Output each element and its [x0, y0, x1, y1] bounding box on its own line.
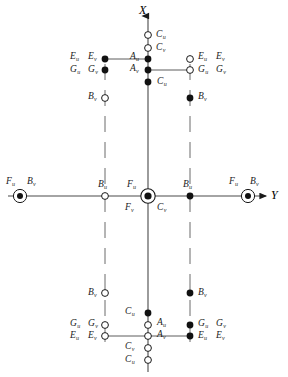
point-a-v-bottom	[145, 333, 152, 340]
point-c-u-top	[145, 32, 152, 39]
label-e-v-left: Ev	[88, 52, 96, 62]
point-b-v-lower-left	[102, 290, 109, 297]
label-e-v-right: Ev	[216, 52, 224, 62]
label-g-u-left: Gu	[70, 65, 80, 75]
label-e-u-left: Eu	[70, 52, 79, 62]
point-g-u-right	[187, 67, 194, 74]
point-b-v-lower-right	[187, 290, 194, 297]
point-concentric-far-left-core	[17, 193, 23, 199]
label-b-v-far-right: Bv	[250, 177, 258, 187]
point-g-v-bottom-left	[102, 322, 109, 329]
point-origin-core	[144, 192, 151, 199]
point-a-v-top	[145, 67, 152, 74]
point-c-u-bottom-upper	[145, 310, 152, 317]
point-b-u-axis-left	[102, 193, 109, 200]
x-axis-label: X	[139, 4, 146, 16]
label-g-v-right: Gv	[216, 65, 226, 75]
label-c-u-top: Cu	[156, 30, 165, 40]
label-c-u-top-third: Cu	[157, 77, 166, 87]
label-e-v-bottom-left: Ev	[88, 331, 96, 341]
point-e-u-bottom-right	[187, 333, 194, 340]
label-e-u-bottom-right: Eu	[198, 331, 207, 341]
label-b-v-far-left: Bv	[27, 177, 35, 187]
point-e-v-bottom-left	[102, 333, 109, 340]
label-a-u-top: Au	[130, 52, 139, 62]
point-c-v-top	[145, 45, 152, 52]
label-e-v-bottom-right: Ev	[216, 331, 224, 341]
label-f-u-far-left: Fu	[6, 177, 15, 187]
point-g-v-left	[102, 67, 109, 74]
label-g-v-bottom-left: Gv	[88, 319, 98, 329]
label-a-u-bottom: Au	[157, 318, 166, 328]
point-a-u-bottom	[145, 322, 152, 329]
label-b-v-lower-right: Bv	[198, 288, 206, 298]
label-e-u-bottom-left: Eu	[70, 331, 79, 341]
label-b-u-axis-left: Bu	[98, 180, 107, 190]
point-e-v-left	[102, 56, 109, 63]
label-a-v-top: Av	[130, 64, 138, 74]
point-c-u-bottom-lower	[145, 357, 152, 364]
label-c-v-bottom: Cv	[125, 342, 134, 352]
label-b-u-axis-right: Bu	[183, 180, 192, 190]
label-b-v-upper-left: Bv	[88, 92, 96, 102]
label-e-u-right: Eu	[198, 52, 207, 62]
y-axis-label: Y	[271, 189, 278, 201]
label-a-v-bottom: Av	[157, 330, 165, 340]
coordinate-lattice-diagram: X Y Cu Cv Au Av Cu Eu Ev Gu Gv Eu Ev Gu …	[0, 0, 288, 377]
label-g-v-left: Gv	[88, 65, 98, 75]
label-f-u-origin: Fu	[127, 180, 136, 190]
label-b-v-upper-right: Bv	[198, 92, 206, 102]
point-b-v-upper-right	[187, 95, 194, 102]
point-c-v-bottom	[145, 345, 152, 352]
point-e-u-right	[187, 56, 194, 63]
label-c-v-top: Cv	[156, 43, 165, 53]
label-c-u-bottom-upper: Cu	[125, 307, 134, 317]
point-b-u-axis-right	[187, 193, 194, 200]
label-f-u-far-right: Fu	[229, 177, 238, 187]
label-g-u-bottom-left: Gu	[70, 319, 80, 329]
label-c-v-origin: Cv	[157, 203, 166, 213]
label-f-v-origin: Fv	[125, 203, 133, 213]
point-b-v-upper-left	[102, 95, 109, 102]
point-c-u-top-third	[145, 79, 152, 86]
diagram-canvas	[0, 0, 288, 377]
label-g-v-bottom-right: Gv	[216, 319, 226, 329]
point-a-u-top	[145, 56, 152, 63]
label-c-u-bottom-lower: Cu	[125, 355, 134, 365]
label-g-u-right: Gu	[198, 65, 208, 75]
point-g-u-bottom-right	[187, 322, 194, 329]
label-g-u-bottom-right: Gu	[198, 319, 208, 329]
point-concentric-far-right-core	[245, 193, 251, 199]
label-b-v-lower-left: Bv	[88, 288, 96, 298]
